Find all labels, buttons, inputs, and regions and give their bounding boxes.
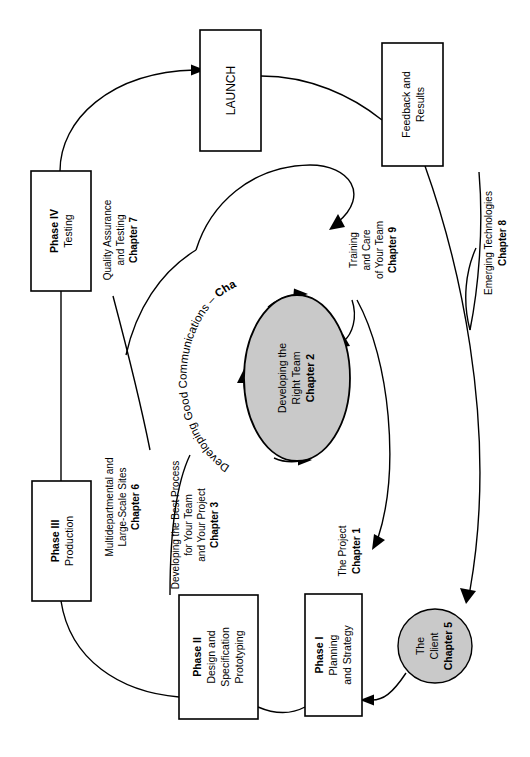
label-chapter6: Multidepartmental and Large-Scale Sites … <box>104 458 141 557</box>
feedback-line-0: Feedback and <box>400 71 412 138</box>
chapter6-line-2: Chapter 6 <box>130 484 141 531</box>
connector-chapter7-lower <box>113 296 150 450</box>
chapter3-line-0: Developing the Best Process <box>170 461 181 589</box>
connector-phase1-to-phase2 <box>258 707 305 713</box>
team-line-1: Right Team <box>290 351 302 404</box>
connector-phase2-to-phase3 <box>61 601 179 697</box>
lifecycle-diagram: LAUNCH Feedback and Results Phase IV Tes… <box>0 0 530 757</box>
chapter3-line-2: and Your Project <box>196 488 207 562</box>
chapter9-line-0: Training <box>348 232 359 268</box>
team-line-2: Chapter 2 <box>304 354 316 403</box>
phase3-line-0: Phase III <box>49 520 61 563</box>
chapter7-line-0: Quality Assurance <box>102 199 113 280</box>
arrow-head-icon <box>329 214 345 230</box>
connector-team-to-project <box>357 300 390 550</box>
label-chapter3: Developing the Best Process for Your Tea… <box>170 461 220 589</box>
phase4-line-0: Phase IV <box>48 209 60 253</box>
team-line-0: Developing the <box>276 343 288 413</box>
chapter6-line-0: Multidepartmental and <box>104 458 115 557</box>
phase3-line-1: Production <box>63 516 75 566</box>
node-feedback[interactable] <box>382 43 443 166</box>
diagram-canvas: LAUNCH Feedback and Results Phase IV Tes… <box>0 0 530 757</box>
arrow-head-icon <box>460 588 476 604</box>
chapter1-line-1: Chapter 1 <box>351 528 362 575</box>
launch-line-0: LAUNCH <box>224 66 238 115</box>
chapter7-line-1: and Testing <box>115 215 126 266</box>
connector-feedback-to-client <box>425 166 480 604</box>
phase1-line-1: Planning <box>327 634 339 675</box>
client-line-0: The <box>414 637 426 655</box>
client-line-1: Client <box>428 633 440 660</box>
label-chapter1: The Project Chapter 1 <box>337 525 362 576</box>
connector-launch-inner-arc <box>196 165 354 250</box>
client-line-2: Chapter 5 <box>442 622 454 671</box>
connector-launch-to-feedback <box>261 76 382 120</box>
label-chapter9: Training and Care of Your Team Chapter 9 <box>348 221 398 279</box>
connector-chapter8-spur <box>466 172 481 330</box>
feedback-line-1: Results <box>414 87 426 122</box>
node-phase3[interactable] <box>32 481 91 601</box>
chapter1-line-0: The Project <box>337 525 348 576</box>
chapter9-line-1: and Care <box>361 229 372 271</box>
chapter3-line-1: for Your Team <box>183 494 194 556</box>
phase2-line-0: Phase II <box>191 637 203 677</box>
node-launch-label: LAUNCH <box>224 66 238 115</box>
chapter8-line-0: Emerging Technologies <box>483 191 494 295</box>
chapter6-line-1: Large-Scale Sites <box>117 468 128 547</box>
phase2-line-1: Design and <box>205 630 217 683</box>
chapter4-text-normal: Developing Good Communications – <box>177 291 232 475</box>
phase2-line-2: Specification <box>219 627 231 687</box>
label-chapter8: Emerging Technologies Chapter 8 <box>483 191 508 295</box>
chapter3-line-3: Chapter 3 <box>209 502 220 549</box>
chapter9-line-2: of Your Team <box>374 221 385 279</box>
phase2-line-3: Prototyping <box>233 630 245 683</box>
phase1-line-0: Phase I <box>313 637 325 674</box>
phase4-line-1: Testing <box>62 214 74 247</box>
chapter9-line-3: Chapter 9 <box>387 227 398 274</box>
node-phase4[interactable] <box>31 171 91 291</box>
phase1-line-2: and Strategy <box>341 624 353 684</box>
connector-client-to-phase1 <box>360 673 406 706</box>
chapter8-line-1: Chapter 8 <box>497 220 508 267</box>
chapter7-line-2: Chapter 7 <box>128 217 139 264</box>
label-chapter7: Quality Assurance and Testing Chapter 7 <box>102 199 139 280</box>
connector-phase4-to-launch <box>60 65 205 172</box>
